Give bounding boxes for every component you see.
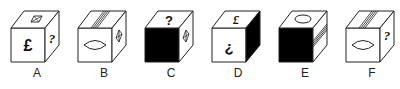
cube-e-drawing	[272, 0, 338, 66]
pound-sign-icon: £	[232, 13, 240, 27]
cube-f-label: F	[339, 66, 400, 80]
cube-a-drawing: £ ?	[4, 0, 70, 66]
black-face	[145, 28, 179, 62]
cube-e: E	[272, 0, 338, 89]
cube-c-label: C	[138, 66, 204, 80]
question-mark-icon: ?	[384, 28, 391, 43]
cube-d-drawing: £ ¿	[205, 0, 271, 66]
question-mark-icon: ?	[49, 31, 56, 46]
cube-b-drawing	[71, 0, 137, 66]
black-face	[279, 28, 313, 62]
cube-b-label: B	[71, 66, 137, 80]
cube-a-label: A	[4, 66, 70, 80]
question-mark-icon: ?	[165, 13, 173, 28]
inverted-question-mark-icon: ¿	[224, 38, 233, 55]
cube-e-label: E	[272, 66, 338, 80]
cube-c: ? C	[138, 0, 204, 89]
cube-b: B	[71, 0, 137, 89]
cube-d: £ ¿ D	[205, 0, 271, 89]
cube-c-drawing: ?	[138, 0, 204, 66]
pound-sign-icon: £	[24, 37, 33, 54]
cube-d-label: D	[205, 66, 271, 80]
cube-f-drawing: ?	[339, 0, 400, 66]
cube-a: £ ? A	[4, 0, 70, 89]
cube-f: ? F	[339, 0, 400, 89]
